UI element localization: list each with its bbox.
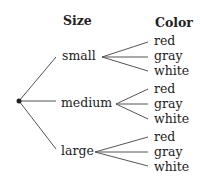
tree-diagram: Size Color small medium large red gray w… xyxy=(0,0,200,187)
size-small: small xyxy=(62,50,96,63)
color-header: Color xyxy=(155,17,193,30)
color-medium-gray: gray xyxy=(154,98,183,111)
color-small-white: white xyxy=(154,65,189,78)
size-header: Size xyxy=(63,15,92,28)
color-medium-red: red xyxy=(154,83,175,96)
size-medium: medium xyxy=(61,97,112,110)
color-large-red: red xyxy=(154,131,175,144)
color-small-red: red xyxy=(154,35,175,48)
color-small-gray: gray xyxy=(154,50,183,63)
size-large: large xyxy=(61,145,94,158)
root-node-dot xyxy=(17,99,22,104)
color-medium-white: white xyxy=(154,113,189,126)
color-large-white: white xyxy=(154,161,189,174)
color-large-gray: gray xyxy=(154,146,183,159)
